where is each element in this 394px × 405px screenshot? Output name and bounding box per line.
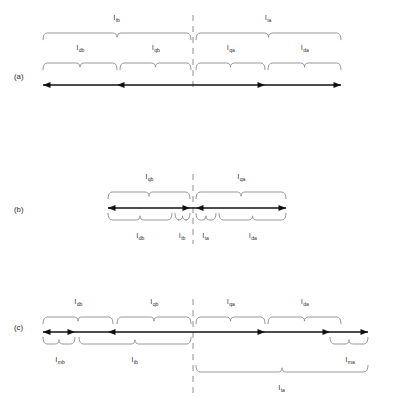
brace-a-middle-qb-1 <box>120 63 191 70</box>
brace-c-bottom-outer-ta-0 <box>196 365 368 372</box>
brace-c-top-qb-1 <box>117 317 191 324</box>
label-sub-c-bottom-mb-0: mb <box>58 359 65 365</box>
label-a-middle-db-0: ldb <box>77 43 85 53</box>
brace-b-top-qb-0 <box>108 192 190 199</box>
label-sub-a-middle-db-0: db <box>79 47 85 53</box>
row-tag-a: (a) <box>14 72 24 81</box>
label-c-top-qb-1: lqb <box>151 297 159 307</box>
label-sub-c-bottom-outer-ta-0: ta <box>281 387 285 393</box>
arrowhead-c-4 <box>323 329 331 335</box>
label-sub-a-top-ta-1: ta <box>267 17 271 23</box>
label-c-bottom-outer-ta-0: lta <box>279 383 285 393</box>
arrowhead-a-3 <box>334 82 342 88</box>
label-sub-b-top-qb-0: qb <box>148 176 154 182</box>
brace-a-middle-da-3 <box>268 63 341 70</box>
label-sub-b-bottom-tb-1: tb <box>181 235 185 241</box>
brace-b-top-qa-1 <box>196 192 286 199</box>
arrowhead-c-0 <box>43 329 51 335</box>
brace-c-top-qa-2 <box>196 317 265 324</box>
arrowhead-b-2 <box>196 205 204 211</box>
label-a-middle-qa-2: lqa <box>227 43 235 53</box>
label-sub-c-top-qb-1: qb <box>153 301 159 307</box>
arrowhead-c-3 <box>258 329 266 335</box>
figure-canvas: ltbltaldblqblqalda(a)lqblqaldbltbltalda(… <box>0 0 394 405</box>
label-b-bottom-tb-1: ltb <box>179 231 185 241</box>
brace-b-bottom-tb-1 <box>175 213 190 220</box>
label-a-middle-da-3: lda <box>301 43 309 53</box>
label-a-top-tb-0: ltb <box>114 13 120 23</box>
label-b-bottom-db-0: ldb <box>137 231 145 241</box>
brace-b-bottom-ta-2 <box>196 213 216 220</box>
brace-c-top-da-3 <box>268 317 341 324</box>
arrowhead-b-1 <box>183 205 191 211</box>
label-sub-c-bottom-tb-1: tb <box>134 359 138 365</box>
label-sub-c-top-da-3: da <box>303 301 309 307</box>
arrowhead-a-2 <box>258 82 266 88</box>
brace-a-top-ta-1 <box>196 33 341 40</box>
label-b-bottom-da-3: lda <box>249 231 257 241</box>
arrowhead-c-2 <box>108 329 116 335</box>
arrowhead-b-3 <box>279 205 287 211</box>
brace-a-top-tb-0 <box>43 33 191 40</box>
label-b-top-qb-0: lqb <box>146 172 154 182</box>
arrowhead-a-0 <box>43 82 51 88</box>
label-b-bottom-ta-2: lta <box>203 231 209 241</box>
brace-c-bottom-mb-0 <box>43 337 75 344</box>
brace-a-middle-qa-2 <box>196 63 265 70</box>
label-c-bottom-ma-2: lma <box>346 355 355 365</box>
row-tag-b: (b) <box>14 205 24 214</box>
arrowhead-b-0 <box>108 205 116 211</box>
label-c-top-qa-2: lqa <box>227 297 235 307</box>
label-b-top-qa-1: lqa <box>238 172 246 182</box>
brace-c-bottom-ma-2 <box>330 337 368 344</box>
brace-a-middle-db-0 <box>43 63 117 70</box>
label-c-bottom-mb-0: lmb <box>56 355 65 365</box>
row-tag-c: (c) <box>14 323 23 332</box>
label-c-top-db-0: ldb <box>75 297 83 307</box>
label-sub-b-bottom-ta-2: ta <box>205 235 209 241</box>
label-sub-a-middle-qb-1: qb <box>154 47 160 53</box>
label-sub-c-top-db-0: db <box>77 301 83 307</box>
label-sub-c-top-qa-2: qa <box>229 301 235 307</box>
label-sub-b-top-qa-1: qa <box>240 176 246 182</box>
label-sub-a-middle-da-3: da <box>303 47 309 53</box>
label-sub-b-bottom-db-0: db <box>139 235 145 241</box>
arrowhead-c-1 <box>68 329 76 335</box>
distance-decomposition-figure: ltbltaldblqblqalda(a)lqblqaldbltbltalda(… <box>0 0 394 405</box>
arrowhead-c-5 <box>361 329 369 335</box>
label-sub-a-top-tb-0: tb <box>116 17 120 23</box>
label-sub-a-middle-qa-2: qa <box>229 47 235 53</box>
label-sub-b-bottom-da-3: da <box>251 235 257 241</box>
label-c-bottom-tb-1: ltb <box>132 355 138 365</box>
arrowhead-a-1 <box>117 82 125 88</box>
brace-b-bottom-db-0 <box>108 213 172 220</box>
label-a-middle-qb-1: lqb <box>152 43 160 53</box>
label-sub-c-bottom-ma-2: ma <box>348 359 355 365</box>
generated-geometry-layer: ltbltaldblqblqalda(a)lqblqaldbltbltalda(… <box>14 13 368 396</box>
brace-c-bottom-tb-1 <box>79 337 191 344</box>
brace-c-top-db-0 <box>43 317 113 324</box>
brace-b-bottom-da-3 <box>219 213 286 220</box>
label-a-top-ta-1: lta <box>265 13 271 23</box>
label-c-top-da-3: lda <box>301 297 309 307</box>
